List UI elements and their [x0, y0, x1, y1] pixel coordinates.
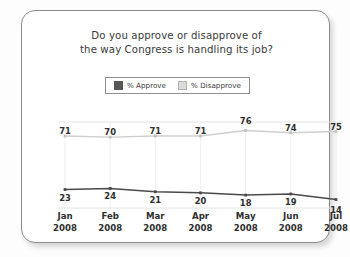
chart-card: Do you approve or disapprove of the way …	[21, 10, 330, 243]
series-marker-approve-2	[154, 190, 157, 193]
legend-item-approve: % Approve	[114, 81, 166, 90]
x-tick-year: 2008	[189, 223, 213, 235]
chart-legend: % Approve % Disapprove	[105, 77, 250, 94]
data-label-approve-3: 20	[195, 196, 207, 206]
data-label-disapprove-6: 75	[330, 122, 342, 132]
legend-label-approve: % Approve	[127, 81, 166, 90]
data-label-disapprove-0: 71	[59, 126, 71, 136]
x-tick-year: 2008	[53, 223, 77, 235]
data-label-approve-4: 18	[240, 198, 252, 208]
x-tick-jan: Jan2008	[53, 211, 77, 234]
chart-title-line-2: the way Congress is handling its job?	[34, 43, 319, 57]
x-tick-jul: Jul2008	[324, 211, 348, 234]
data-label-approve-1: 24	[104, 191, 116, 201]
x-tick-may: May2008	[234, 211, 258, 234]
series-marker-approve-1	[109, 187, 112, 190]
x-tick-feb: Feb2008	[98, 211, 122, 234]
series-marker-disapprove-4	[244, 129, 247, 132]
x-tick-month: Apr	[189, 211, 213, 223]
chart-title-line-1: Do you approve or disapprove of	[34, 29, 319, 43]
data-label-disapprove-5: 74	[285, 123, 297, 133]
x-tick-mar: Mar2008	[143, 211, 167, 234]
x-tick-jun: Jun2008	[279, 211, 303, 234]
chart-title: Do you approve or disapprove of the way …	[34, 29, 319, 56]
series-marker-approve-6	[335, 198, 338, 201]
x-tick-month: Mar	[143, 211, 167, 223]
legend-item-disapprove: % Disapprove	[178, 81, 241, 90]
data-label-disapprove-3: 71	[195, 126, 207, 136]
data-label-disapprove-2: 71	[150, 126, 162, 136]
legend-swatch-disapprove-icon	[178, 81, 187, 90]
data-label-approve-2: 21	[150, 195, 162, 205]
x-tick-month: Feb	[98, 211, 122, 223]
x-axis: Jan2008Feb2008Mar2008Apr2008May2008Jun20…	[58, 211, 343, 247]
x-tick-year: 2008	[143, 223, 167, 235]
data-label-disapprove-1: 70	[104, 127, 116, 137]
data-label-approve-0: 23	[59, 193, 71, 203]
legend-label-disapprove: % Disapprove	[191, 81, 241, 90]
series-marker-approve-0	[64, 188, 67, 191]
x-tick-month: May	[234, 211, 258, 223]
x-tick-month: Jun	[279, 211, 303, 223]
series-marker-approve-3	[199, 191, 202, 194]
x-tick-year: 2008	[279, 223, 303, 235]
legend-swatch-approve-icon	[114, 81, 123, 90]
series-marker-approve-5	[289, 193, 292, 196]
x-tick-month: Jan	[53, 211, 77, 223]
series-marker-approve-4	[244, 194, 247, 197]
x-tick-month: Jul	[324, 211, 348, 223]
x-tick-year: 2008	[98, 223, 122, 235]
x-tick-apr: Apr2008	[189, 211, 213, 234]
data-label-disapprove-4: 76	[240, 116, 252, 126]
screenshot-stage: Do you approve or disapprove of the way …	[0, 0, 350, 257]
data-label-approve-5: 19	[285, 197, 297, 207]
x-tick-year: 2008	[324, 223, 348, 235]
x-tick-year: 2008	[234, 223, 258, 235]
